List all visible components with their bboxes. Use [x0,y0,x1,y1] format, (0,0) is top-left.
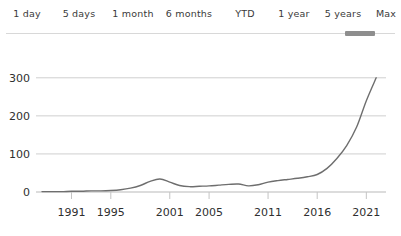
x-axis-ticks [71,192,366,199]
range-tab-max[interactable]: Max [369,8,401,20]
chart-svg: 0100200300 1991199520012005201120162021 [0,40,401,236]
range-tab-list: 1 day5 days1 month6 monthsYTD1 year5 yea… [0,8,401,28]
y-tick-label: 300 [9,72,30,85]
range-tab-ytd[interactable]: YTD [227,8,263,20]
range-tab-6-months[interactable]: 6 months [158,8,220,20]
stock-range-chart-panel: 1 day5 days1 month6 monthsYTD1 year5 yea… [0,0,401,236]
range-selector: 1 day5 days1 month6 monthsYTD1 year5 yea… [0,0,401,40]
y-tick-label: 200 [9,110,30,123]
range-selected-indicator[interactable] [345,31,375,36]
x-tick-label: 2001 [156,206,184,219]
y-tick-label: 0 [23,186,30,199]
x-tick-label: 1991 [57,206,85,219]
x-tick-label: 2021 [352,206,380,219]
range-tab-1-day[interactable]: 1 day [4,8,50,20]
line-chart: 0100200300 1991199520012005201120162021 [0,40,401,236]
range-tab-5-days[interactable]: 5 days [53,8,105,20]
gridlines [36,78,386,192]
y-axis-labels: 0100200300 [9,72,30,199]
range-tab-1-year[interactable]: 1 year [272,8,316,20]
range-tab-5-years[interactable]: 5 years [317,8,369,20]
x-tick-label: 2005 [195,206,223,219]
x-tick-label: 1995 [97,206,125,219]
x-axis-labels: 1991199520012005201120162021 [57,206,380,219]
y-tick-label: 100 [9,148,30,161]
series-line-value [42,78,376,192]
range-tab-1-month[interactable]: 1 month [105,8,161,20]
range-rule-divider [6,33,395,34]
x-tick-label: 2016 [303,206,331,219]
x-tick-label: 2011 [254,206,282,219]
